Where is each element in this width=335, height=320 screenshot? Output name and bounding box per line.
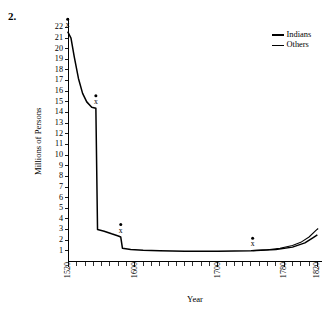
legend-label-others: Others [287,40,309,49]
chart-legend: IndiansOthers [272,30,311,50]
y-tick-label: 1 [59,246,63,255]
y-axis-tick-labels: 12345678910111213141516171819202122 [55,22,63,254]
x-axis-title: Year [187,294,203,304]
series-line-others [253,229,319,251]
y-tick-label: 18 [55,65,63,74]
y-tick-label: 14 [55,107,63,116]
chart-canvas: 12345678910111213141516171819202122 1520… [0,0,335,320]
x-tick-label: 1780 [279,262,288,278]
x-tick-label: 1820 [312,262,321,278]
annotation-marker: x [66,18,70,30]
data-series-group [68,32,319,252]
y-tick-label: 21 [55,33,63,42]
y-tick-label: 15 [55,97,63,106]
marker-x-label: x [94,97,98,106]
figure-container: 2. 12345678910111213141516171819202122 1… [0,0,335,320]
y-tick-label: 12 [55,129,63,138]
x-tick-label: 1520 [63,262,72,278]
y-tick-label: 8 [59,171,63,180]
legend-label-indians: Indians [287,30,312,39]
annotation-marker: x [119,223,123,235]
y-tick-label: 13 [55,118,63,127]
y-axis-ticks [65,27,69,250]
y-tick-label: 3 [59,224,63,233]
y-tick-label: 5 [59,203,63,212]
annotation-markers-group: xxxx [66,18,255,249]
y-tick-label: 17 [55,75,63,84]
y-tick-label: 20 [55,44,63,53]
y-tick-label: 19 [55,54,63,63]
y-tick-label: 6 [59,193,63,202]
x-tick-label: 1700 [213,262,222,278]
y-tick-label: 9 [59,161,63,170]
annotation-marker: x [251,237,255,249]
y-tick-label: 16 [55,86,63,95]
marker-x-label: x [251,239,255,248]
y-tick-label: 4 [59,214,63,223]
marker-x-label: x [66,20,70,29]
y-tick-label: 2 [59,235,63,244]
marker-x-label: x [119,226,123,235]
y-tick-label: 11 [55,139,63,148]
plot-area: 12345678910111213141516171819202122 1520… [55,18,322,279]
y-tick-label: 7 [59,182,63,191]
x-tick-label: 1600 [130,262,139,278]
y-tick-label: 10 [55,150,63,159]
y-axis-title: Millions of Persons [33,107,43,175]
annotation-marker: x [94,94,98,106]
series-line-indians [68,32,318,252]
y-tick-label: 22 [55,22,63,31]
